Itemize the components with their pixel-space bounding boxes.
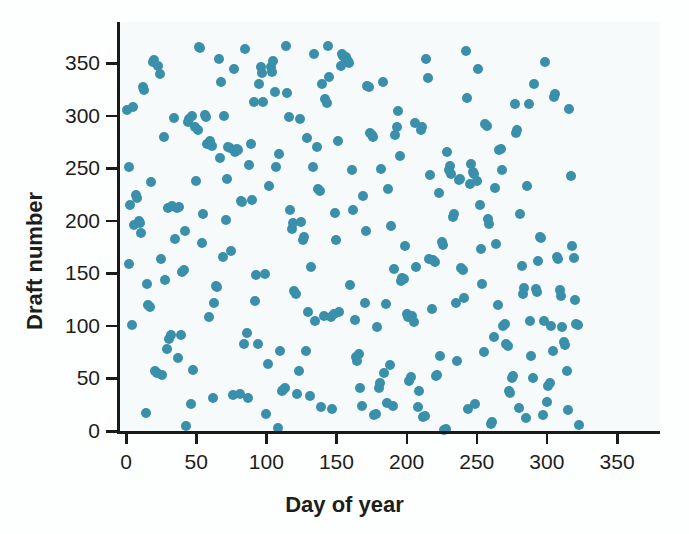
x-axis-tick-label: 0: [120, 450, 132, 474]
y-axis-tick-mark: [106, 167, 117, 170]
plot-area-background: [117, 22, 660, 431]
x-axis-tick-mark: [125, 433, 128, 444]
y-axis-tick-label: 300: [65, 104, 100, 128]
x-axis-tick-label: 200: [389, 450, 424, 474]
x-axis-tick-label: 350: [600, 450, 635, 474]
y-axis-tick-label: 0: [88, 419, 100, 443]
y-axis-tick-mark: [106, 377, 117, 380]
y-axis-tick-mark: [106, 272, 117, 275]
y-axis-tick-label: 50: [77, 366, 100, 390]
x-axis-tick-mark: [546, 433, 549, 444]
y-axis-line: [117, 22, 120, 433]
x-axis-tick-mark: [195, 433, 198, 444]
x-axis-tick-label: 250: [459, 450, 494, 474]
scatter-plot-figure: 050100150200250300350 050100150200250300…: [0, 0, 689, 534]
x-axis-tick-mark: [476, 433, 479, 444]
y-axis-tick-label: 200: [65, 209, 100, 233]
y-axis-tick-label: 250: [65, 156, 100, 180]
x-axis-tick-mark: [335, 433, 338, 444]
x-axis-tick-mark: [616, 433, 619, 444]
x-axis-line: [117, 431, 660, 434]
x-axis-tick-label: 50: [184, 450, 207, 474]
x-axis-title: Day of year: [0, 492, 689, 518]
y-axis-tick-mark: [106, 115, 117, 118]
x-axis-tick-label: 150: [319, 450, 354, 474]
y-axis-tick-mark: [106, 220, 117, 223]
y-axis-title: Draft number: [22, 192, 48, 330]
y-axis-tick-label: 350: [65, 51, 100, 75]
y-axis-tick-mark: [106, 325, 117, 328]
y-axis-tick-mark: [106, 62, 117, 65]
y-axis-tick-mark: [106, 430, 117, 433]
x-axis-tick-label: 100: [249, 450, 284, 474]
x-axis-tick-label: 300: [529, 450, 564, 474]
x-axis-tick-mark: [265, 433, 268, 444]
y-axis-tick-label: 100: [65, 314, 100, 338]
x-axis-tick-mark: [406, 433, 409, 444]
y-axis-tick-label: 150: [65, 261, 100, 285]
